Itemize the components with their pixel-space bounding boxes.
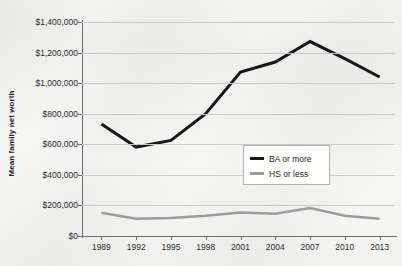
- y-tick-mark: [78, 236, 82, 237]
- y-tick-mark: [78, 53, 82, 54]
- x-tick-mark: [206, 236, 207, 240]
- series-lines: [82, 22, 395, 236]
- y-tick-label: $1,400,000: [35, 17, 78, 27]
- gridline: [82, 114, 395, 115]
- y-tick-label: $600,000: [43, 139, 78, 149]
- x-tick-label: 1992: [127, 242, 146, 252]
- x-tick-mark: [380, 236, 381, 240]
- x-tick-label: 2013: [370, 242, 389, 252]
- y-tick-mark: [78, 114, 82, 115]
- y-tick-mark: [78, 22, 82, 23]
- x-tick-mark: [101, 236, 102, 240]
- legend-label-ba: BA or more: [269, 154, 312, 164]
- x-tick-label: 1998: [196, 242, 215, 252]
- y-tick-label: $400,000: [43, 170, 78, 180]
- x-tick-label: 2004: [266, 242, 285, 252]
- x-tick-label: 2010: [335, 242, 354, 252]
- gridline: [82, 175, 395, 176]
- chart-legend: BA or more HS or less: [243, 145, 330, 185]
- y-axis-tick-labels: $0$200,000$400,000$600,000$800,000$1,000…: [16, 0, 78, 266]
- gridline: [82, 53, 395, 54]
- x-axis-tick-marks: [82, 236, 395, 241]
- legend-swatch-line-icon-hs: [250, 172, 264, 175]
- gridline: [82, 22, 395, 23]
- x-tick-label: 2001: [231, 242, 250, 252]
- legend-item-ba-or-more: BA or more: [250, 151, 323, 166]
- x-tick-mark: [310, 236, 311, 240]
- x-tick-label: 2007: [301, 242, 320, 252]
- y-tick-label: $1,200,000: [35, 48, 78, 58]
- series-line-ba-or-more: [101, 42, 379, 147]
- gridline: [82, 144, 395, 145]
- y-tick-mark: [78, 83, 82, 84]
- x-tick-mark: [241, 236, 242, 240]
- y-axis-title-text: Mean family net worth: [7, 90, 16, 176]
- y-tick-label: $800,000: [43, 109, 78, 119]
- gridline: [82, 205, 395, 206]
- x-tick-mark: [136, 236, 137, 240]
- x-tick-label: 1995: [161, 242, 180, 252]
- y-tick-mark: [78, 175, 82, 176]
- x-tick-mark: [345, 236, 346, 240]
- legend-swatch-line-icon-ba: [250, 157, 264, 160]
- series-line-hs-or-less: [101, 208, 379, 219]
- legend-item-hs-or-less: HS or less: [250, 166, 323, 181]
- y-tick-label: $200,000: [43, 200, 78, 210]
- y-tick-label: $1,000,000: [35, 78, 78, 88]
- y-tick-label: $0: [69, 231, 78, 241]
- x-tick-mark: [275, 236, 276, 240]
- line-chart: Mean family net worth $0$200,000$400,000…: [0, 0, 402, 266]
- y-tick-mark: [78, 144, 82, 145]
- x-tick-mark: [171, 236, 172, 240]
- legend-label-hs: HS or less: [269, 169, 308, 179]
- x-tick-label: 1989: [92, 242, 111, 252]
- plot-area: [82, 22, 395, 236]
- gridline: [82, 83, 395, 84]
- y-tick-mark: [78, 205, 82, 206]
